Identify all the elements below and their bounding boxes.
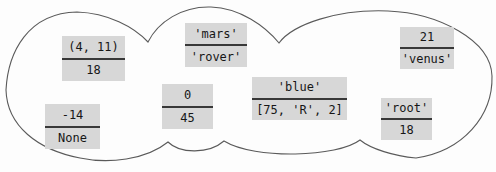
entry-value: [75, 'R', 2] xyxy=(252,100,347,121)
entry-value: None xyxy=(45,128,100,150)
dict-entry: 0 45 xyxy=(162,84,213,129)
entry-key: 'blue' xyxy=(252,77,347,100)
entry-value: 18 xyxy=(62,60,125,82)
dict-entry: 'blue' [75, 'R', 2] xyxy=(252,77,347,120)
entry-value: 18 xyxy=(381,120,432,140)
dict-entry: 'root' 18 xyxy=(381,98,432,140)
dict-entry: 'mars' 'rover' xyxy=(185,23,247,67)
entry-key: 'mars' xyxy=(185,23,247,46)
dict-entry: (4, 11) 18 xyxy=(62,36,125,81)
entry-key: 21 xyxy=(400,27,454,49)
entry-key: (4, 11) xyxy=(62,36,125,60)
dict-entry: -14 None xyxy=(45,104,100,149)
entry-key: -14 xyxy=(45,104,100,128)
dict-entry: 21 'venus' xyxy=(400,27,454,69)
entry-key: 'root' xyxy=(381,98,432,120)
entry-value: 'venus' xyxy=(400,49,454,69)
entry-value: 'rover' xyxy=(185,46,247,67)
dictionary-cloud-diagram: (4, 11) 18 'mars' 'rover' 21 'venus' -14… xyxy=(0,0,496,172)
entry-key: 0 xyxy=(162,84,213,108)
entry-value: 45 xyxy=(162,108,213,130)
